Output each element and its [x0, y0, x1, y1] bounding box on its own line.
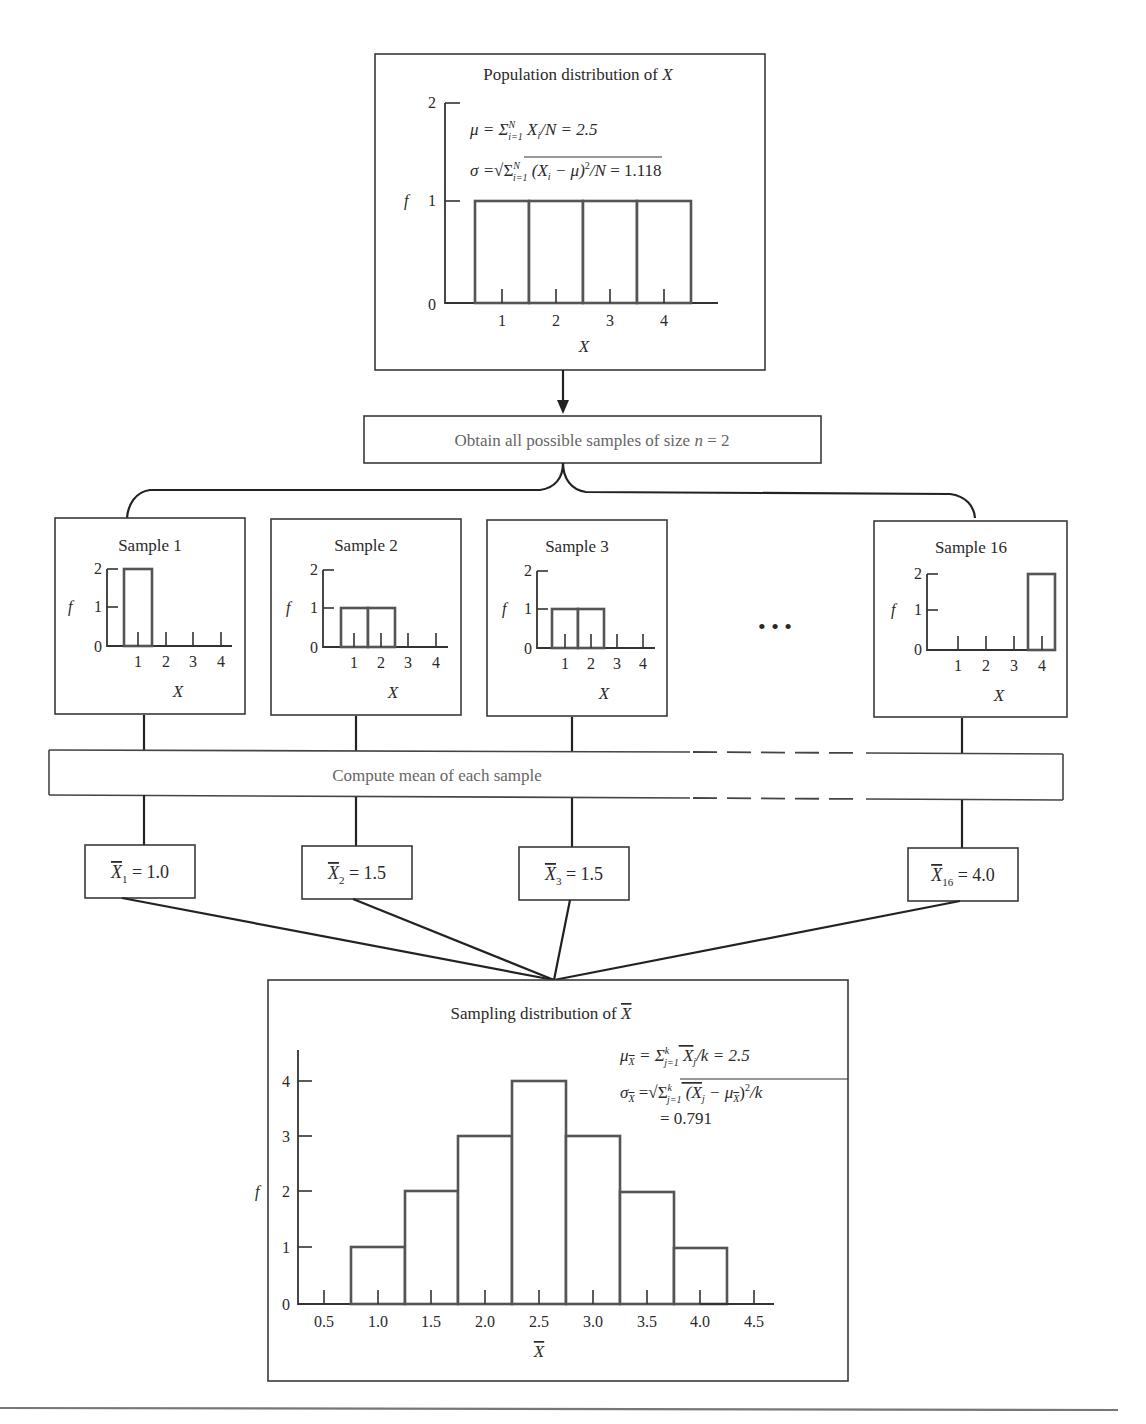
obtain-samples-label: Obtain all possible samples of size n = … [455, 431, 730, 450]
svg-text:2: 2 [310, 561, 318, 578]
svg-text:0: 0 [94, 638, 102, 655]
svg-text:3.5: 3.5 [637, 1313, 657, 1330]
svg-text:4: 4 [660, 312, 668, 329]
svg-text:X3 = 1.5: X3 = 1.5 [544, 864, 603, 887]
svg-text:0: 0 [524, 640, 532, 657]
svg-text:1: 1 [524, 600, 532, 617]
population-bar-1 [475, 201, 529, 303]
svg-text:4.0: 4.0 [690, 1313, 710, 1330]
ellipsis: • • • [758, 614, 792, 639]
population-mu-formula: μ = ΣNi=1 Xi/N = 2.5 [469, 119, 598, 142]
svg-text:1: 1 [134, 653, 142, 670]
svg-text:X2 = 1.5: X2 = 1.5 [327, 863, 386, 886]
population-sigma-formula: σ =√ΣNi=1 (Xi − μ)2/N = 1.118 [470, 160, 662, 183]
svg-text:1: 1 [282, 1239, 290, 1256]
svg-text:Sample 1: Sample 1 [118, 536, 182, 555]
svg-text:4: 4 [432, 654, 440, 671]
svg-text:2: 2 [94, 560, 102, 577]
svg-text:2: 2 [524, 562, 532, 579]
sampling-mu-formula: μX = Σkj=1 Xj/k = 2.5 [619, 1045, 750, 1068]
svg-text:1: 1 [561, 655, 569, 672]
svg-text:X: X [533, 1342, 545, 1361]
population-ytick-2: 2 [428, 94, 436, 111]
svg-text:2: 2 [982, 657, 990, 674]
svg-text:0: 0 [282, 1296, 290, 1313]
sampling-sigma-formula: σX =√Σkj=1 (Xj − μX)2/k [620, 1082, 763, 1105]
svg-text:1: 1 [498, 312, 506, 329]
mean-box-1: X1 = 1.0 [85, 845, 195, 898]
brace-right [563, 463, 975, 518]
svg-text:1: 1 [350, 654, 358, 671]
svg-text:4: 4 [1038, 657, 1046, 674]
sample-16-panel: Sample 16 2 1 0 f 1 2 3 4 X [874, 521, 1067, 717]
svg-text:X: X [172, 682, 184, 701]
svg-text:3: 3 [189, 653, 197, 670]
svg-text:1: 1 [914, 601, 922, 618]
population-ytick-0: 0 [428, 296, 436, 313]
svg-text:0.5: 0.5 [314, 1313, 334, 1330]
page-bottom-rule [0, 1408, 1118, 1410]
svg-text:4: 4 [282, 1073, 290, 1090]
svg-text:3: 3 [606, 312, 614, 329]
sample-3-panel: Sample 3 2 1 0 f 1 2 3 4 X [487, 520, 667, 716]
svg-text:X: X [598, 684, 610, 703]
population-bar-4 [637, 201, 691, 303]
svg-text:2: 2 [162, 653, 170, 670]
sample-2-panel: Sample 2 2 1 0 f 1 2 3 4 X [271, 519, 461, 715]
svg-text:1.5: 1.5 [421, 1313, 441, 1330]
svg-text:1: 1 [94, 598, 102, 615]
svg-text:4.5: 4.5 [744, 1313, 764, 1330]
mean-box-2: X2 = 1.5 [302, 846, 412, 899]
svg-text:3: 3 [282, 1128, 290, 1145]
sampling-distribution-diagram: Population distribution of X 2 1 0 f 1 2… [0, 0, 1146, 1424]
svg-text:X: X [387, 683, 399, 702]
population-xlabel: X [578, 337, 590, 356]
svg-text:3.0: 3.0 [583, 1313, 603, 1330]
svg-text:2.5: 2.5 [529, 1313, 549, 1330]
population-distribution-panel: Population distribution of X 2 1 0 f 1 2… [375, 54, 765, 370]
compute-mean-box: Compute mean of each sample [49, 750, 1063, 800]
svg-text:3: 3 [613, 655, 621, 672]
svg-text:3: 3 [1010, 657, 1018, 674]
svg-text:X16 = 4.0: X16 = 4.0 [930, 865, 995, 888]
svg-text:0: 0 [914, 641, 922, 658]
sample-1-panel: Sample 1 2 1 0 f 1 2 3 4 X [55, 518, 245, 714]
brace-left [127, 463, 563, 518]
svg-text:X: X [993, 686, 1005, 705]
svg-text:4: 4 [217, 653, 225, 670]
mean-box-3: X3 = 1.5 [519, 847, 629, 900]
population-ytick-1: 1 [428, 192, 436, 209]
svg-text:1: 1 [954, 657, 962, 674]
svg-text:Sample 2: Sample 2 [334, 536, 398, 555]
population-bar-3 [583, 201, 637, 303]
sampling-distribution-panel: Sampling distribution of X 4 3 2 1 0 f 0… [255, 980, 848, 1381]
arrow-head-icon [557, 400, 569, 414]
compute-mean-label: Compute mean of each sample [332, 766, 542, 785]
svg-text:1.0: 1.0 [368, 1313, 388, 1330]
svg-text:4: 4 [639, 655, 647, 672]
mean-box-16: X16 = 4.0 [908, 848, 1018, 901]
svg-text:3: 3 [404, 654, 412, 671]
svg-text:Sample 3: Sample 3 [545, 537, 609, 556]
svg-text:f: f [255, 1183, 262, 1201]
svg-text:0: 0 [310, 639, 318, 656]
sampling-sigma-value: = 0.791 [660, 1109, 712, 1128]
population-title: Population distribution of X [483, 65, 673, 84]
svg-text:X1 = 1.0: X1 = 1.0 [110, 862, 169, 885]
svg-text:Sample 16: Sample 16 [935, 538, 1007, 557]
svg-text:1: 1 [310, 599, 318, 616]
svg-text:2: 2 [282, 1183, 290, 1200]
svg-text:2: 2 [914, 565, 922, 582]
svg-text:2.0: 2.0 [475, 1313, 495, 1330]
svg-text:2: 2 [552, 312, 560, 329]
sampling-title: Sampling distribution of X [451, 1004, 632, 1023]
svg-text:2: 2 [377, 654, 385, 671]
population-bar-2 [529, 201, 583, 303]
svg-text:2: 2 [587, 655, 595, 672]
